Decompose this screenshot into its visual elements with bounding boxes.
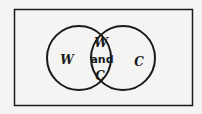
intersection-label-w: W (94, 36, 109, 50)
intersection-label-c: C (95, 69, 105, 83)
intersection-label-and: and (90, 53, 113, 66)
venn-diagram: W C W and C (0, 0, 202, 114)
set-w-label: W (60, 53, 75, 67)
set-c-label: C (134, 55, 144, 69)
